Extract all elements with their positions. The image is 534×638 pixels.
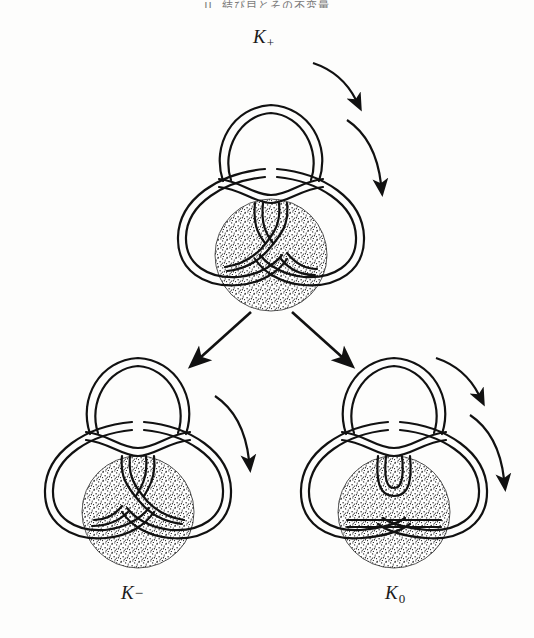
figure-page: II. 結び目とその不変量 [0,0,534,638]
orientation-arrow-kplus-lower [347,120,381,184]
label-k-minus-sub: − [134,585,143,601]
orientation-arrow-kzero-lower [470,415,504,479]
label-k-zero: K0 [385,582,405,607]
label-k-plus-sub: + [266,35,274,50]
label-k-zero-base: K [385,582,398,603]
label-k-plus-base: K [253,26,266,47]
orientation-arrow-kzero-upper [436,358,479,395]
k-plus-diagram [178,105,364,311]
label-k-zero-sub: 0 [398,591,406,606]
k-zero-diagram [301,358,487,568]
label-k-minus: K− [121,582,143,604]
arrow-to-k-minus [201,312,251,357]
knot-figure-svg [0,0,534,638]
orientation-arrow-kplus-upper [313,63,356,100]
orientation-arrow-kminus [215,396,249,460]
arrow-to-k-zero [292,312,342,357]
label-k-minus-base: K [121,582,134,603]
k-minus-diagram [45,358,231,568]
label-k-plus: K+ [253,26,274,51]
